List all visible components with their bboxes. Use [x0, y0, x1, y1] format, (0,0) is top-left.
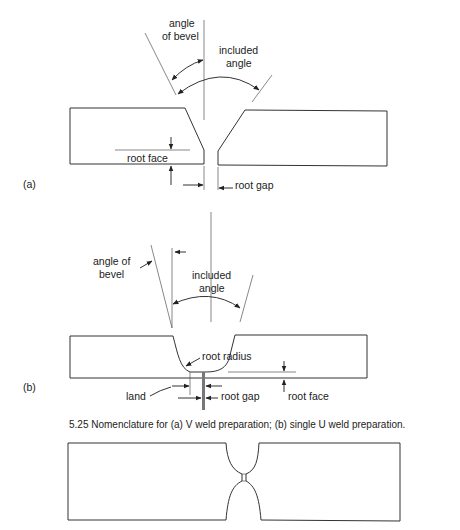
label-included-angle-b-2: angle	[199, 282, 225, 294]
label-root-radius-b: root radius	[202, 350, 252, 362]
label-root-face-a: root face	[127, 152, 168, 164]
angle-of-bevel-arc-a	[172, 60, 203, 80]
label-included-angle-b-1: included	[192, 269, 231, 281]
label-included-angle-a-2: angle	[226, 57, 252, 69]
label-angle-of-bevel-b-1: angle of	[93, 255, 130, 267]
label-angle-of-bevel-a-2: of bevel	[162, 30, 199, 42]
figure-caption: 5.25 Nomenclature for (a) V weld prepara…	[69, 419, 405, 430]
right-plate-c	[246, 443, 400, 521]
label-angle-of-bevel-a-1: angle	[169, 17, 195, 29]
left-plate-c	[68, 443, 242, 520]
panel-label-b: (b)	[23, 381, 36, 393]
right-plate-a	[218, 110, 387, 166]
included-angle-arc-a	[178, 77, 259, 94]
included-angle-arc-b	[173, 296, 240, 308]
figure-b-u-weld: angle of bevel included angle root radiu…	[23, 212, 367, 410]
label-land-b: land	[126, 390, 146, 402]
figure-c-double-u	[68, 443, 400, 521]
figure-a-v-weld: angle of bevel included angle root face …	[23, 17, 387, 191]
weld-diagram: angle of bevel included angle root face …	[0, 0, 460, 530]
label-root-gap-a: root gap	[235, 179, 274, 191]
label-root-face-b: root face	[288, 390, 329, 402]
panel-label-a: (a)	[23, 178, 36, 190]
label-included-angle-a-1: included	[219, 44, 258, 56]
label-angle-of-bevel-b-2: bevel	[99, 268, 124, 280]
label-root-gap-b: root gap	[221, 390, 260, 402]
